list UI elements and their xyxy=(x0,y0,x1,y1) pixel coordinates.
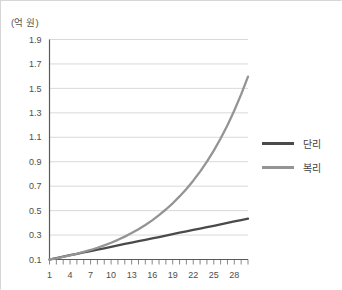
chart-figure: (억 원) 0.10.30.50.70.91.11.31.51.71.9 147… xyxy=(0,0,342,290)
y-tick-label: 1.5 xyxy=(29,84,42,94)
x-tick-label: 25 xyxy=(209,270,219,280)
x-tick-label: 10 xyxy=(106,270,116,280)
legend-label-compound-interest: 복리 xyxy=(303,160,321,175)
y-tick-label: 1.7 xyxy=(29,59,42,69)
x-tick-label: 19 xyxy=(168,270,178,280)
chart-axes xyxy=(50,40,249,260)
legend-swatch-compound-interest xyxy=(262,166,294,169)
legend-item-simple-interest: 단리 xyxy=(262,131,334,155)
legend-swatch-simple-interest xyxy=(262,142,294,145)
y-tick-label: 0.7 xyxy=(29,181,42,191)
y-tick-label: 0.3 xyxy=(29,230,42,240)
data-series xyxy=(50,77,249,260)
x-tick-label: 7 xyxy=(88,270,93,280)
legend-item-compound-interest: 복리 xyxy=(262,155,334,179)
legend-label-simple-interest: 단리 xyxy=(303,136,321,151)
y-tick-label: 1.1 xyxy=(29,132,42,142)
x-tick-label: 1 xyxy=(47,270,52,280)
x-tick-label: 22 xyxy=(188,270,198,280)
chart-legend: 단리 복리 xyxy=(262,131,334,179)
x-tick-label: 16 xyxy=(147,270,157,280)
y-tick-label: 0.1 xyxy=(29,255,42,265)
y-tick-label: 1.9 xyxy=(29,35,42,45)
x-tick-label: 13 xyxy=(127,270,137,280)
x-axis-ticks xyxy=(50,260,249,265)
x-tick-label: 4 xyxy=(68,270,73,280)
y-tick-label: 1.3 xyxy=(29,108,42,118)
gridlines xyxy=(50,40,249,260)
x-tick-label: 28 xyxy=(229,270,239,280)
x-axis-tick-labels: 14710131619222528 xyxy=(47,270,239,280)
y-tick-label: 0.5 xyxy=(29,206,42,216)
series-line-compound-interest xyxy=(50,77,249,260)
y-tick-label: 0.9 xyxy=(29,157,42,167)
y-axis-tick-labels: 0.10.30.50.70.91.11.31.51.71.9 xyxy=(29,35,42,265)
